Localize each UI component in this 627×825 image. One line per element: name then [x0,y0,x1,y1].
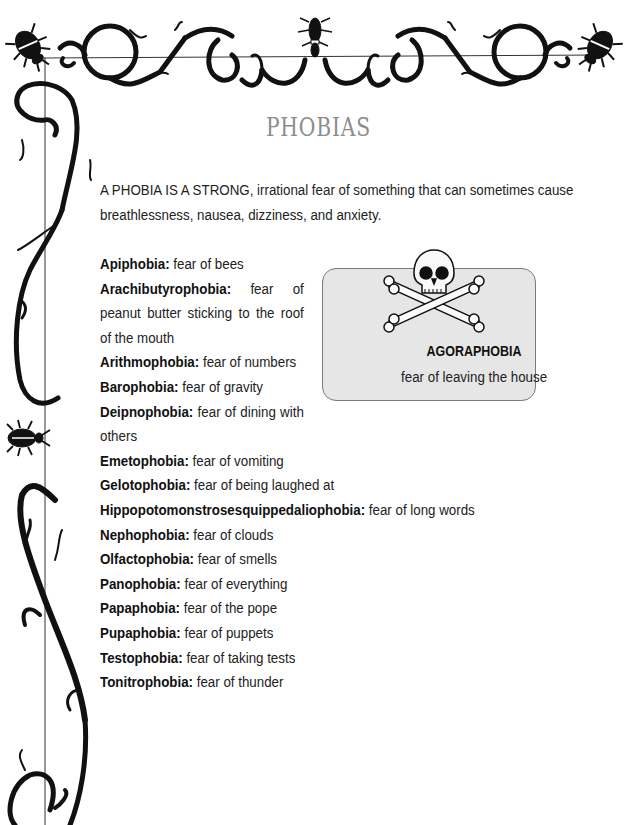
phobia-list: Apiphobia: fear of bees Arachibutyrophob… [100,252,340,695]
phobia-definition: fear of numbers [199,353,296,370]
phobia-definition: fear of long words [365,501,475,518]
phobia-definition: fear of vomiting [189,452,284,469]
phobia-definition: fear of puppets [181,624,274,641]
list-item: Panophobia: fear of everything [100,572,340,597]
list-item: Deipnophobia: fear of dining with others [100,400,340,449]
phobia-term: Deipnophobia: [100,403,193,420]
phobia-definition: fear of being laughed at [190,476,334,493]
list-item: Papaphobia: fear of the pope [100,596,340,621]
list-item: Barophobia: fear of gravity [100,375,340,400]
intro-paragraph: A PHOBIA IS A STRONG, irrational fear of… [100,177,616,227]
phobia-definition: fear of thunder [193,673,283,690]
list-item: Testophobia: fear of taking tests [100,646,340,671]
page-title: PHOBIAS [70,112,559,142]
callout-definition: fear of leaving the house [382,368,566,386]
list-item: Tonitrophobia: fear of thunder [100,670,340,695]
left-vine-ornament [10,84,91,825]
list-item: Arithmophobia: fear of numbers [100,350,340,375]
beetle-icon-top-center [298,18,332,57]
phobia-definition: fear of gravity [179,378,263,395]
phobia-definition: fear of bees [170,255,244,272]
list-item: Olfactophobia: fear of smells [100,547,340,572]
list-item: Pupaphobia: fear of puppets [100,621,340,646]
phobia-definition: fear of everything [181,575,288,592]
list-item: Hippopotomonstrosesquippedaliophobia: fe… [100,498,340,523]
beetle-icon-left [7,420,50,456]
phobia-term: Apiphobia: [100,255,170,272]
beetle-icon-top-right [568,21,625,79]
list-item: Gelotophobia: fear of being laughed at [100,473,340,498]
phobia-term: Emetophobia: [100,452,189,469]
phobia-definition: fear of smells [194,550,277,567]
beetle-icon-top-left [3,21,60,79]
phobia-term: Arithmophobia: [100,353,199,370]
phobia-term: Gelotophobia: [100,476,190,493]
list-item: Apiphobia: fear of bees [100,252,340,277]
phobia-term: Nephophobia: [100,526,190,543]
phobia-term: Arachibutyrophobia: [100,280,231,297]
phobia-term: Panophobia: [100,575,181,592]
list-item: Nephophobia: fear of clouds [100,523,340,548]
phobia-term: Hippopotomonstrosesquippedaliophobia: [100,501,365,518]
phobia-term: Tonitrophobia: [100,673,193,690]
phobia-term: Pupaphobia: [100,624,181,641]
phobia-term: Testophobia: [100,649,183,666]
phobia-term: Olfactophobia: [100,550,194,567]
phobia-term: Barophobia: [100,378,179,395]
phobia-definition: fear of the pope [180,599,277,616]
list-item: Emetophobia: fear of vomiting [100,449,340,474]
phobia-term: Papaphobia: [100,599,180,616]
list-item: Arachibutyrophobia: fear of peanut butte… [100,277,340,351]
phobia-definition: fear of clouds [190,526,274,543]
phobia-definition: fear of taking tests [183,649,296,666]
skull-and-crossbones-icon [380,247,490,337]
callout-term: AGORAPHOBIA [382,343,566,359]
